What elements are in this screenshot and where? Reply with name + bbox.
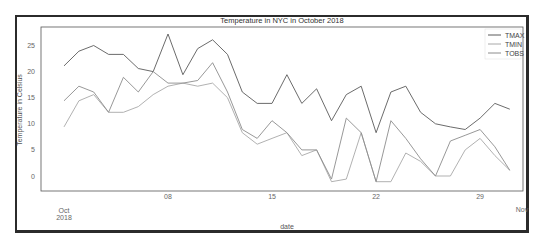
y-axis-ticks: 0510152025: [27, 42, 35, 180]
x-tick-label: 29: [476, 193, 484, 200]
plot-area: [41, 27, 523, 191]
x-tick-label: 22: [372, 193, 380, 200]
y-axis-label: Temperature in Celsius: [16, 74, 24, 146]
y-tick-label: 20: [27, 68, 35, 75]
y-tick-label: 5: [31, 146, 35, 153]
x-tick-label: 08: [164, 193, 172, 200]
y-tick-label: 15: [27, 94, 35, 101]
line-chart: Temperature in NYC in October 2018 date …: [0, 0, 552, 243]
y-tick-label: 10: [27, 120, 35, 127]
x-axis-ticks: Oct201808152229Nov: [56, 193, 529, 221]
legend: TMAXTMINTOBS: [485, 29, 525, 59]
legend-label-tmin: TMIN: [505, 41, 522, 48]
x-axis-label: date: [280, 223, 294, 230]
x-tick-label: 15: [268, 193, 276, 200]
x-tick-label: 2018: [56, 214, 72, 221]
chart-title: Temperature in NYC in October 2018: [220, 16, 343, 25]
legend-label-tobs: TOBS: [505, 50, 524, 57]
y-tick-label: 0: [31, 173, 35, 180]
y-tick-label: 25: [27, 42, 35, 49]
legend-label-tmax: TMAX: [505, 32, 525, 39]
x-tick-label: Oct: [59, 207, 70, 214]
x-tick-label: Nov: [516, 206, 529, 213]
